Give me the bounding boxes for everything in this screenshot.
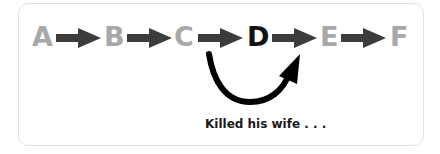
arrow-right-icon xyxy=(56,28,101,48)
node-d: D xyxy=(247,22,269,52)
arrow-right-icon xyxy=(341,28,386,48)
node-f: F xyxy=(390,22,408,52)
loop-caption: Killed his wife . . . xyxy=(205,117,326,131)
arrow-right-icon xyxy=(127,28,172,48)
arrow-right-icon xyxy=(198,28,243,48)
node-c: C xyxy=(174,22,194,52)
arrow-right-icon xyxy=(272,28,317,48)
node-a: A xyxy=(32,22,53,52)
curved-arrow-icon xyxy=(195,50,305,112)
node-b: B xyxy=(104,22,125,52)
node-e: E xyxy=(320,22,338,52)
